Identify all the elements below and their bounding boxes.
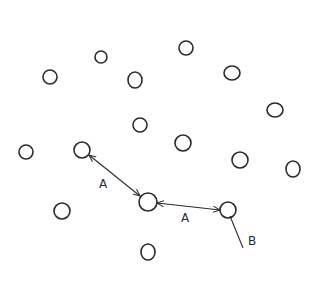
node-group <box>19 41 300 260</box>
node-circle <box>95 51 107 63</box>
network-diagram: A A B <box>0 0 322 300</box>
node-circle <box>43 70 57 84</box>
edge-b <box>230 216 243 248</box>
node-circle <box>286 161 300 177</box>
node-circle <box>220 202 236 218</box>
node-circle <box>19 145 33 159</box>
edge-label-a-upper: A <box>99 177 108 191</box>
edge-a-upper <box>89 155 140 196</box>
edge-label-a-lower: A <box>181 211 190 225</box>
node-circle <box>74 142 90 158</box>
node-circle <box>224 66 240 80</box>
node-circle <box>267 103 283 117</box>
edge-a-lower <box>157 203 220 210</box>
edge-label-b: B <box>248 234 256 248</box>
node-circle <box>232 152 248 168</box>
node-circle <box>141 244 155 260</box>
node-circle <box>54 203 70 219</box>
node-circle <box>179 41 193 55</box>
node-circle <box>133 118 147 132</box>
node-circle <box>128 72 142 88</box>
node-circle <box>139 193 157 211</box>
node-circle <box>175 135 191 151</box>
